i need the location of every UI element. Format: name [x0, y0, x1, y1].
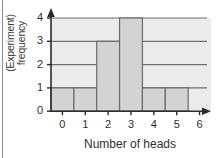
bar-0: [51, 88, 74, 111]
y-tick-label: 4: [29, 12, 43, 23]
x-tick-label: 1: [78, 119, 92, 130]
x-axis-label: Number of heads: [46, 137, 214, 151]
x-tick-label: 6: [193, 119, 207, 130]
y-tick-label: 2: [29, 59, 43, 70]
x-tick-label: 2: [101, 119, 115, 130]
x-tick-label: 5: [170, 119, 184, 130]
x-tick-label: 0: [55, 119, 69, 130]
y-axis-arrowhead: [47, 8, 55, 17]
histogram-figure: (Experiment) frequency 01234 0123456 Num…: [0, 0, 217, 158]
bar-3: [120, 18, 143, 111]
x-tick-label: 4: [147, 119, 161, 130]
bar-5: [165, 88, 188, 111]
y-tick-label: 1: [29, 82, 43, 93]
bar-2: [97, 41, 120, 111]
bar-1: [74, 88, 97, 111]
bar-4: [142, 88, 165, 111]
y-tick-label: 3: [29, 35, 43, 46]
x-tick-label: 3: [124, 119, 138, 130]
y-tick-label: 0: [29, 105, 43, 116]
plot-canvas: [0, 0, 217, 158]
